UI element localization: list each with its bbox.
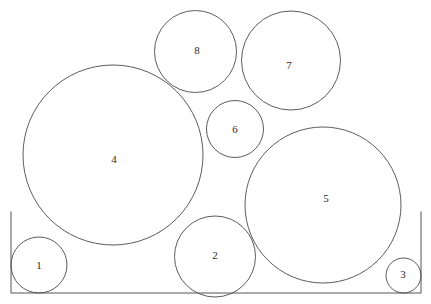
circle-label-3: 3 xyxy=(400,268,406,280)
circle-label-2: 2 xyxy=(212,249,218,261)
circle-label-1: 1 xyxy=(36,259,42,271)
circle-label-5: 5 xyxy=(323,192,329,204)
circle-label-7: 7 xyxy=(286,59,292,71)
packing-canvas: 12345678 xyxy=(0,0,431,304)
circle-packing-figure: 12345678 xyxy=(0,0,431,304)
circle-labels-group: 12345678 xyxy=(36,44,406,280)
circle-label-6: 6 xyxy=(232,123,238,135)
circle-5 xyxy=(245,127,401,283)
circle-label-4: 4 xyxy=(111,153,117,165)
circle-label-8: 8 xyxy=(194,44,200,56)
